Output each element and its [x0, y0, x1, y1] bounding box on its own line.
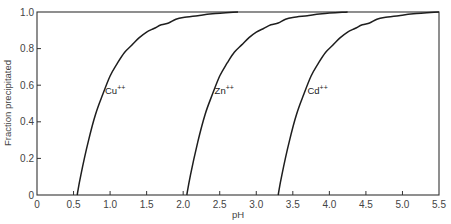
x-tick-label: 2.5 — [213, 199, 227, 210]
curve-cu — [77, 12, 238, 195]
y-tick-label: 0.8 — [20, 43, 34, 54]
precipitation-chart: 00.51.01.52.02.53.03.54.04.55.05.5 00.20… — [0, 0, 451, 224]
y-tick-label: 0.6 — [20, 80, 34, 91]
x-tick-label: 4.0 — [322, 199, 336, 210]
y-tick-label: 0.2 — [20, 153, 34, 164]
x-tick-label: 0.5 — [67, 199, 81, 210]
y-axis-label: Fraction precipitated — [2, 60, 13, 146]
plot-border — [37, 12, 439, 195]
x-tick-label: 5.5 — [432, 199, 446, 210]
x-tick-label: 4.5 — [359, 199, 373, 210]
x-tick-label: 5.0 — [396, 199, 410, 210]
series-label-zn: Zn++ — [215, 84, 234, 96]
series-labels: Cu++Zn++Cd++ — [105, 84, 328, 96]
curve-cd — [278, 12, 439, 195]
x-axis-ticks: 00.51.01.52.02.53.03.54.04.55.05.5 — [34, 191, 446, 210]
x-tick-label: 0 — [34, 199, 40, 210]
x-axis-label: pH — [232, 209, 244, 220]
x-tick-label: 3.0 — [249, 199, 263, 210]
series-label-cd: Cd++ — [307, 84, 327, 96]
y-tick-label: 1.0 — [20, 7, 34, 18]
curve-zn — [187, 12, 348, 195]
curves — [77, 12, 439, 195]
plot-frame — [37, 12, 439, 195]
x-tick-label: 2.0 — [176, 199, 190, 210]
series-label-cu: Cu++ — [105, 84, 125, 96]
y-tick-label: 0.4 — [20, 116, 34, 127]
x-tick-label: 3.5 — [286, 199, 300, 210]
y-axis-ticks: 00.20.40.60.81.0 — [20, 7, 41, 201]
y-tick-label: 0 — [28, 190, 34, 201]
x-tick-label: 1.0 — [103, 199, 117, 210]
x-tick-label: 1.5 — [140, 199, 154, 210]
